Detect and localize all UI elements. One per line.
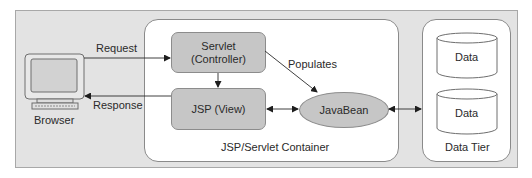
request-label: Request — [96, 42, 137, 54]
servlet-label: Servlet — [191, 40, 246, 53]
data-store-1: Data — [436, 32, 498, 80]
jsp-view-node: JSP (View) — [171, 88, 266, 130]
response-label: Response — [93, 99, 143, 111]
container-label: JSP/Servlet Container — [221, 141, 329, 153]
jsp-view-label: JSP (View) — [191, 103, 245, 116]
javabean-node: JavaBean — [299, 92, 389, 128]
data-store-1-label: Data — [455, 51, 478, 63]
computer-monitor-icon — [24, 53, 86, 113]
browser-label: Browser — [34, 114, 74, 126]
servlet-controller-node: Servlet (Controller) — [171, 32, 266, 73]
controller-label: (Controller) — [191, 53, 246, 66]
data-tier-label: Data Tier — [445, 141, 490, 153]
data-store-2-label: Data — [455, 107, 478, 119]
browser-node — [24, 53, 86, 113]
data-store-2: Data — [436, 88, 498, 136]
javabean-label: JavaBean — [320, 104, 369, 116]
populates-label: Populates — [288, 58, 337, 70]
